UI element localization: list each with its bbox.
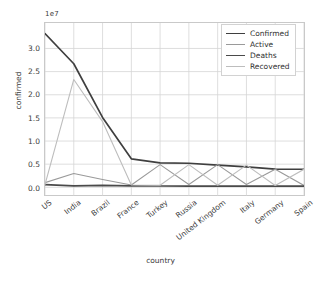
y-axis-tick-label: 3.0 xyxy=(4,43,40,52)
x-axis-tick-label: France xyxy=(115,198,140,220)
legend-label: Active xyxy=(250,39,273,50)
y-axis-tick-label: 2.0 xyxy=(4,90,40,99)
legend-item-confirmed[interactable]: Confirmed xyxy=(226,28,290,39)
x-axis-tick-label: US xyxy=(40,198,54,211)
y-axis-tick-label: 0.0 xyxy=(4,183,40,192)
legend-swatch-icon xyxy=(226,66,245,67)
x-axis-tick-label: India xyxy=(62,198,82,216)
x-axis-tick-label: Brazil xyxy=(90,198,112,218)
legend-item-active[interactable]: Active xyxy=(226,39,290,50)
legend: ConfirmedActiveDeathsRecovered xyxy=(221,24,296,76)
y-axis-tick-label: 0.5 xyxy=(4,160,40,169)
legend-swatch-icon xyxy=(226,33,245,34)
x-axis-tick-label: Turkey xyxy=(145,198,170,220)
y-axis-tick-label: 1.0 xyxy=(4,136,40,145)
y-axis-offset-label: 1e7 xyxy=(45,10,59,18)
x-axis-tick-labels: USIndiaBrazilFranceTurkeyRussiaUnited Ki… xyxy=(44,196,305,256)
y-axis-tick-label: 1.5 xyxy=(4,113,40,122)
legend-swatch-icon xyxy=(226,55,245,56)
y-axis-tick-label: 2.5 xyxy=(4,66,40,75)
legend-label: Deaths xyxy=(250,50,277,61)
x-axis-label: country xyxy=(0,256,321,265)
y-axis-tick-labels: 0.00.51.01.52.02.53.0 xyxy=(0,22,40,196)
x-axis-tick-label: Italy xyxy=(238,198,256,215)
legend-item-recovered[interactable]: Recovered xyxy=(226,61,290,72)
legend-swatch-icon xyxy=(226,44,245,45)
x-axis-tick-label: Russia xyxy=(174,198,199,220)
figure: 1e7 confirmed 0.00.51.01.52.02.53.0 USIn… xyxy=(0,0,321,283)
x-axis-tick-label: Germany xyxy=(253,198,286,226)
legend-item-deaths[interactable]: Deaths xyxy=(226,50,290,61)
legend-label: Recovered xyxy=(250,61,290,72)
x-axis-tick-label: Spain xyxy=(292,198,314,218)
legend-label: Confirmed xyxy=(250,28,289,39)
